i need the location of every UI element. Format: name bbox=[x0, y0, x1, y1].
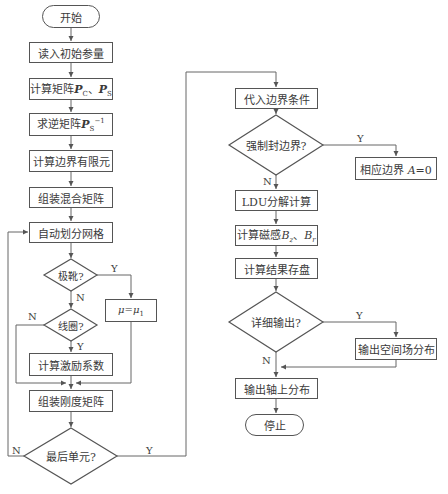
calc-excitation-label: 计算激励系数 bbox=[38, 357, 104, 373]
coil-no-label: N bbox=[28, 311, 37, 322]
flowchart-connectors bbox=[0, 0, 448, 494]
inverse-matrix-box: 求逆矩阵PS−1 bbox=[29, 113, 113, 136]
forced-boundary-no-label: N bbox=[263, 176, 272, 187]
start-label: 开始 bbox=[60, 9, 82, 25]
mu-assign-box: μ=μ1 bbox=[105, 299, 157, 322]
assemble-stiffness-box: 组装刚度矩阵 bbox=[29, 390, 113, 412]
calc-boundary-fem-box: 计算边界有限元 bbox=[29, 150, 113, 172]
set-boundary-box: 相应边界 A=0 bbox=[355, 157, 437, 180]
decision-detail-output-label: 详细输出? bbox=[251, 314, 301, 330]
assemble-mixed-label: 组装混合矩阵 bbox=[38, 190, 104, 206]
detail-output-yes-label: Y bbox=[356, 310, 363, 321]
output-axial-label: 输出轴上分布 bbox=[244, 381, 310, 397]
start-terminal: 开始 bbox=[42, 5, 100, 28]
forced-boundary-yes-label: Y bbox=[357, 133, 364, 144]
auto-mesh-label: 自动划分网格 bbox=[38, 225, 104, 241]
assemble-mixed-box: 组装混合矩阵 bbox=[29, 187, 113, 208]
set-boundary-label: 相应边界 A=0 bbox=[360, 161, 432, 177]
save-results-box: 计算结果存盘 bbox=[235, 258, 318, 279]
ldu-label: LDU分解计算 bbox=[242, 193, 311, 209]
decision-last-element-label: 最后单元? bbox=[46, 448, 96, 464]
output-spatial-box: 输出空间场分布 bbox=[355, 338, 437, 360]
last-element-no-label: N bbox=[12, 445, 21, 456]
output-axial-box: 输出轴上分布 bbox=[235, 378, 318, 399]
last-element-yes-label: Y bbox=[146, 445, 153, 456]
pole-shoe-yes-label: Y bbox=[111, 263, 118, 274]
stop-terminal: 停止 bbox=[245, 414, 304, 436]
coil-yes-label: Y bbox=[77, 341, 84, 352]
calc-flux-label: 计算磁感Bz、Br bbox=[237, 226, 315, 244]
pole-shoe-no-label: N bbox=[76, 292, 85, 303]
read-params-label: 读入初始参量 bbox=[38, 45, 104, 61]
mu-assign-label: μ=μ1 bbox=[118, 304, 144, 318]
decision-pole-shoe-label: 极靴? bbox=[58, 268, 83, 283]
decision-coil-label: 线圈? bbox=[58, 318, 83, 333]
calc-matrix-label: 计算矩阵PC、PS bbox=[30, 80, 112, 98]
ldu-box: LDU分解计算 bbox=[235, 190, 318, 211]
calc-flux-box: 计算磁感Bz、Br bbox=[235, 225, 318, 246]
calc-boundary-fem-label: 计算边界有限元 bbox=[33, 153, 110, 169]
read-params-box: 读入初始参量 bbox=[29, 42, 113, 63]
auto-mesh-box: 自动划分网格 bbox=[29, 222, 113, 243]
stop-label: 停止 bbox=[264, 417, 286, 433]
output-spatial-label: 输出空间场分布 bbox=[358, 341, 435, 357]
decision-forced-boundary-label: 强制封边界? bbox=[246, 137, 307, 153]
apply-boundary-box: 代入边界条件 bbox=[235, 88, 318, 109]
apply-boundary-label: 代入边界条件 bbox=[244, 91, 310, 107]
inverse-matrix-label: 求逆矩阵PS−1 bbox=[37, 115, 104, 133]
assemble-stiffness-label: 组装刚度矩阵 bbox=[38, 393, 104, 409]
detail-output-no-label: N bbox=[262, 355, 271, 366]
save-results-label: 计算结果存盘 bbox=[244, 261, 310, 277]
calc-excitation-box: 计算激励系数 bbox=[29, 353, 113, 376]
calc-matrix-box: 计算矩阵PC、PS bbox=[29, 78, 113, 100]
